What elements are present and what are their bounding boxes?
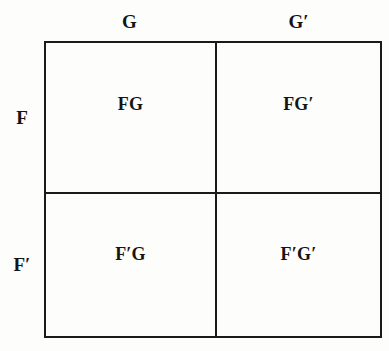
grid-cell-f-prime-g-prime-label: F′G′ bbox=[281, 245, 317, 263]
column-header-g: G bbox=[44, 12, 215, 31]
row-label-f-prime: F′ bbox=[0, 255, 44, 274]
row-label-f: F bbox=[0, 108, 44, 127]
grid-table: FG FG′ F′G F′G′ bbox=[44, 41, 382, 338]
grid-cell-f-prime-g-prime: F′G′ bbox=[217, 194, 380, 340]
grid-cell-fg-prime: FG′ bbox=[217, 43, 380, 192]
grid-cell-f-prime-g: F′G bbox=[46, 194, 215, 340]
column-header-g-prime: G′ bbox=[215, 12, 382, 31]
grid-cell-fg-prime-label: FG′ bbox=[283, 95, 314, 113]
grid-cell-fg-label: FG bbox=[118, 95, 143, 113]
grid-cell-f-prime-g-label: F′G bbox=[115, 245, 146, 263]
grid-cell-fg: FG bbox=[46, 43, 215, 192]
punnett-square-figure: G G′ F F′ FG FG′ F′G F′G′ bbox=[0, 0, 389, 351]
